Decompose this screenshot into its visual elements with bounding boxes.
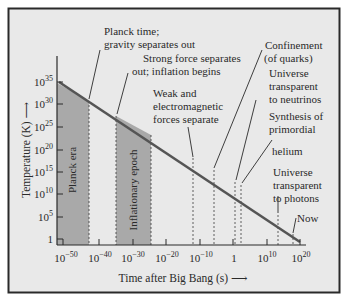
planck-time-label: Planck time; [104,25,159,37]
inflationary-epoch-label: Inflationary epoch [127,149,139,230]
svg-text:1: 1 [48,233,54,245]
confinement-label-2: (of quarks) [264,52,313,65]
confinement-label: Confinement [265,39,322,51]
x-axis-label: Time after Big Bang (s) ⟶ [119,272,248,285]
planck-time-label-2: gravity separates out [104,38,195,50]
photons-label-3: to photons [273,192,319,204]
svg-text:1: 1 [231,252,237,264]
helium-label-3: helium [272,145,303,157]
neutrinos-label: Universe [269,67,309,79]
electroweak-label-3: forces separate [153,113,219,125]
photons-label: Universe [273,166,313,178]
strong-force-label: Strong force separates [143,52,241,64]
photons-label-2: transparent [273,179,322,191]
neutrinos-label-3: to neutrinos [269,93,321,105]
strong-force-label-2: out; inflation begins [132,65,221,77]
helium-label-2: primordial [269,123,315,135]
planck-era-label: Planck era [66,147,78,193]
electroweak-label-2: electromagnetic [153,100,223,112]
now-label: Now [297,212,318,224]
helium-label: Synthesis of [269,110,323,122]
y-axis-label: Temperature (K) ⟶ [20,101,33,198]
chart: 1035 1030 1025 1020 1015 1010 105 1 10−5… [0,0,345,297]
neutrinos-label-2: transparent [269,80,318,92]
electroweak-label: Weak and [153,87,197,99]
